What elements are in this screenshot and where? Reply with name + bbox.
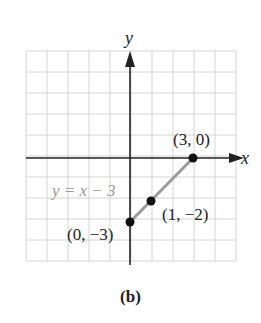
grid <box>26 51 236 261</box>
y-axis-arrow-icon <box>125 51 135 67</box>
label-point-0-neg3: (0, −3) <box>67 225 113 244</box>
point-3-0 <box>189 154 198 163</box>
y-axis-label: y <box>123 28 133 48</box>
graph-figure: x y (3, 0) (1, −2) (0, −3) y = x − 3 <box>0 0 261 323</box>
figure-caption: (b) <box>0 287 261 307</box>
label-point-3-0: (3, 0) <box>173 130 210 149</box>
point-0-neg3 <box>126 218 135 227</box>
label-point-1-neg2: (1, −2) <box>162 205 208 224</box>
equation-label: y = x − 3 <box>50 181 116 200</box>
x-axis-label: x <box>240 148 249 168</box>
point-1-neg2 <box>147 197 156 206</box>
